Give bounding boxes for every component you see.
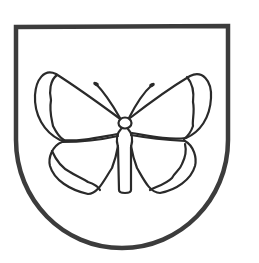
coat-of-arms <box>0 0 259 263</box>
shield-outline <box>16 26 228 248</box>
